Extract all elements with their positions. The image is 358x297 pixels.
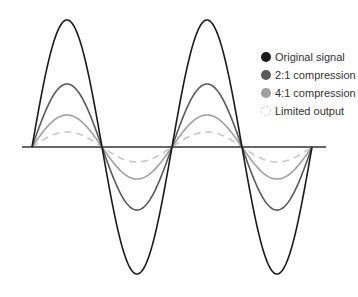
- legend-item-4to1: 4:1 compression: [261, 84, 356, 102]
- legend-marker-original-icon: [261, 52, 271, 62]
- legend-marker-4to1-icon: [261, 88, 271, 98]
- legend-label: Original signal: [275, 51, 345, 63]
- waveform-plot: [0, 0, 358, 297]
- legend: Original signal 2:1 compression 4:1 comp…: [261, 48, 356, 120]
- legend-item-limited: Limited output: [261, 102, 356, 120]
- legend-marker-limited-icon: [261, 106, 271, 116]
- legend-item-2to1: 2:1 compression: [261, 66, 356, 84]
- legend-label: 2:1 compression: [275, 69, 356, 81]
- legend-item-original: Original signal: [261, 48, 356, 66]
- legend-label: Limited output: [275, 105, 344, 117]
- legend-label: 4:1 compression: [275, 87, 356, 99]
- legend-marker-2to1-icon: [261, 70, 271, 80]
